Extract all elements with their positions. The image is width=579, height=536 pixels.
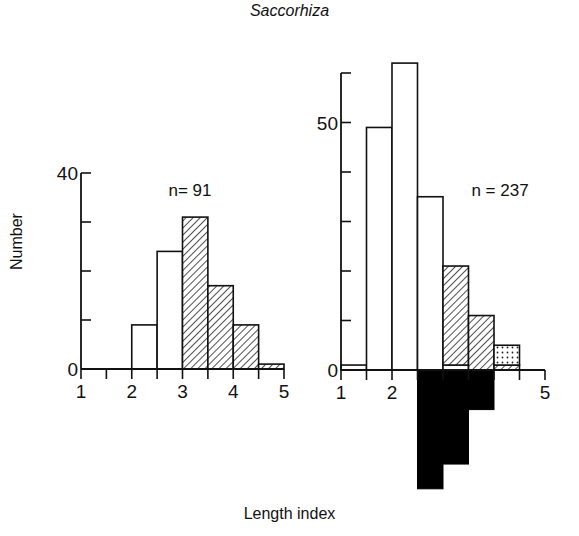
x-tick-label: 5 bbox=[279, 381, 290, 402]
y-tick-label: 0 bbox=[67, 359, 78, 380]
bar-open bbox=[418, 197, 444, 370]
bar-open bbox=[392, 63, 418, 370]
y-tick-label: 0 bbox=[327, 360, 338, 381]
bar-hatched bbox=[469, 316, 495, 370]
y-tick-label: 40 bbox=[57, 163, 78, 184]
x-tick-label: 2 bbox=[387, 382, 398, 403]
bar-open bbox=[367, 127, 393, 370]
bar-dotted bbox=[494, 345, 520, 365]
bar-negative bbox=[418, 370, 444, 489]
right-histogram: 050125n = 237 bbox=[317, 63, 550, 489]
bar-open bbox=[157, 251, 182, 369]
sample-size-annotation: n= 91 bbox=[168, 181, 211, 200]
y-tick-label: 50 bbox=[317, 113, 338, 134]
bar-open bbox=[132, 325, 157, 369]
x-tick-label: 1 bbox=[336, 382, 347, 403]
x-tick-label: 1 bbox=[76, 381, 87, 402]
x-tick-label: 2 bbox=[126, 381, 137, 402]
x-tick-label: 5 bbox=[540, 382, 551, 403]
histogram-figure: 04012345n= 91 050125n = 237 bbox=[0, 0, 579, 536]
bar-negative bbox=[443, 370, 469, 464]
x-tick-label: 3 bbox=[177, 381, 188, 402]
sample-size-annotation: n = 237 bbox=[471, 181, 528, 200]
bar-negative bbox=[469, 370, 495, 410]
x-tick-label: 4 bbox=[228, 381, 239, 402]
bar-hatched bbox=[443, 266, 469, 365]
left-histogram: 04012345n= 91 bbox=[57, 163, 289, 402]
bar-hatched bbox=[208, 286, 233, 369]
bar-hatched bbox=[233, 325, 258, 369]
bar-hatched bbox=[183, 217, 208, 369]
